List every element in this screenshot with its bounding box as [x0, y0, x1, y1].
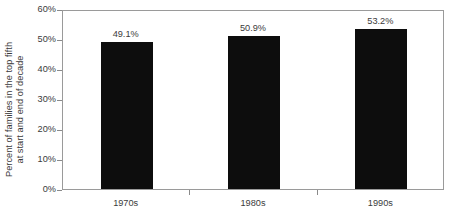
x-axis-category-label: 1970s [86, 199, 166, 208]
x-axis-category-label: 1980s [213, 199, 293, 208]
y-axis-tick-label: 0% [14, 185, 56, 194]
bar-value-label: 50.9% [213, 24, 293, 33]
y-axis-tick-label: 60% [14, 5, 56, 14]
bar-value-label: 53.2% [340, 17, 420, 26]
y-axis-tick-label: 30% [14, 95, 56, 104]
y-axis-tick-labels: 0%10%20%30%40%50%60% [14, 0, 56, 219]
y-axis-tick-label: 10% [14, 155, 56, 164]
x-axis-tick-mark [189, 190, 190, 195]
y-axis-tick-label: 50% [14, 35, 56, 44]
bar-chart-figure: Percent of families in the top fifth at … [0, 0, 451, 219]
bar [228, 36, 280, 189]
x-axis-category-label: 1990s [340, 199, 420, 208]
bar [355, 29, 407, 189]
y-axis-tick-mark [57, 190, 62, 191]
y-axis-tick-label: 20% [14, 125, 56, 134]
bar [101, 42, 153, 189]
x-axis-tick-mark [317, 190, 318, 195]
y-axis-tick-label: 40% [14, 65, 56, 74]
bar-value-label: 49.1% [86, 30, 166, 39]
